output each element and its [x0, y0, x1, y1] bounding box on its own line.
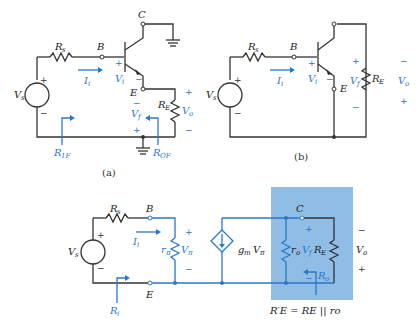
svg-text:+: + — [185, 87, 193, 97]
svg-text:s: s — [255, 46, 259, 54]
svg-text:−: − — [400, 56, 408, 66]
svg-text:E: E — [164, 104, 170, 112]
circuit-b: Rs B E Ii Vi +− Vs +− RE Vf +− Vo −+ (b) — [206, 22, 409, 162]
svg-text:m: m — [244, 249, 251, 257]
svg-text:−: − — [358, 225, 366, 235]
svg-text:OF: OF — [160, 152, 172, 160]
svg-text:o: o — [405, 80, 409, 88]
svg-text:(b): (b) — [294, 151, 308, 162]
svg-text:i: i — [88, 80, 90, 88]
svg-text:B: B — [289, 41, 297, 52]
svg-text:i: i — [122, 78, 124, 86]
svg-text:C: C — [138, 9, 146, 20]
svg-text:o: o — [296, 249, 300, 257]
svg-text:π: π — [187, 249, 193, 257]
equation-re-prime: R′E = RE || ro — [269, 305, 341, 317]
svg-text:i: i — [315, 78, 317, 86]
svg-text:+: + — [400, 96, 408, 106]
svg-text:−: − — [305, 273, 313, 283]
svg-text:s: s — [213, 94, 217, 102]
svg-text:π: π — [259, 249, 265, 257]
svg-text:E: E — [129, 87, 138, 98]
svg-text:−: − — [135, 74, 143, 84]
svg-text:i: i — [137, 241, 139, 249]
svg-text:−: − — [234, 108, 242, 118]
svg-text:B: B — [96, 41, 104, 52]
svg-text:−: − — [40, 108, 48, 118]
svg-text:o: o — [363, 249, 367, 257]
svg-text:+: + — [97, 230, 105, 240]
svg-text:(a): (a) — [102, 167, 116, 178]
svg-text:f: f — [356, 80, 361, 88]
svg-text:+: + — [185, 227, 193, 237]
svg-text:C: C — [296, 203, 304, 214]
svg-text:+: + — [352, 56, 360, 66]
svg-text:+: + — [40, 75, 48, 85]
svg-text:+: + — [358, 264, 366, 274]
circuit-a: Rs B C E Ii Vi +− Vs +− RE Vo +− Vf −+ R… — [14, 9, 193, 178]
svg-text:E: E — [145, 289, 154, 300]
svg-text:E: E — [320, 249, 326, 257]
svg-text:−: − — [133, 98, 141, 108]
svg-text:s: s — [21, 94, 25, 102]
svg-text:+: + — [115, 58, 123, 68]
svg-text:−: − — [185, 125, 193, 135]
resistor-rs-a — [50, 53, 72, 61]
svg-text:E: E — [339, 83, 348, 94]
svg-text:s: s — [75, 251, 79, 259]
circuit-diagram: Rs B C E Ii Vi +− Vs +− RE Vo +− Vf −+ R… — [0, 0, 418, 330]
svg-text:o: o — [325, 275, 329, 283]
svg-text:+: + — [133, 125, 141, 135]
svg-text:+: + — [234, 75, 242, 85]
svg-text:o: o — [189, 110, 193, 118]
svg-text:s: s — [117, 208, 121, 216]
svg-text:−: − — [326, 74, 334, 84]
resistor-re-a — [171, 100, 179, 122]
svg-text:+: + — [305, 224, 313, 234]
svg-text:1F: 1F — [61, 152, 71, 160]
svg-text:+: + — [308, 58, 316, 68]
circuit-c: Rs B E C Ii Vs +− rπ Vπ +− gmVπ ro Vf RE… — [68, 187, 367, 318]
svg-text:−: − — [97, 263, 105, 273]
svg-text:i: i — [117, 310, 119, 318]
svg-text:E: E — [378, 78, 384, 86]
svg-text:i: i — [281, 80, 283, 88]
svg-text:s: s — [62, 46, 66, 54]
voltage-source-a — [25, 83, 49, 107]
svg-text:B: B — [145, 203, 153, 214]
svg-text:−: − — [185, 264, 193, 274]
svg-text:−: − — [352, 102, 360, 112]
svg-text:f: f — [137, 113, 142, 121]
svg-text:π: π — [165, 249, 171, 257]
